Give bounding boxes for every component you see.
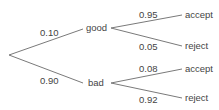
prob-bad: 0.90 [40, 75, 59, 86]
prob-good-reject: 0.05 [139, 41, 158, 52]
probability-tree: 0.10 0.90 good bad 0.95 0.05 0.08 0.92 a… [0, 0, 219, 110]
prob-good: 0.10 [40, 27, 59, 38]
prob-bad-accept: 0.08 [139, 63, 158, 74]
leaf-bad-accept: accept [185, 63, 213, 74]
leaf-good-reject: reject [185, 40, 209, 51]
node-good: good [86, 22, 107, 33]
leaf-good-accept: accept [185, 9, 213, 20]
leaf-bad-reject: reject [185, 92, 209, 103]
node-bad: bad [88, 77, 104, 88]
prob-good-accept: 0.95 [139, 9, 158, 20]
prob-bad-reject: 0.92 [139, 94, 158, 105]
